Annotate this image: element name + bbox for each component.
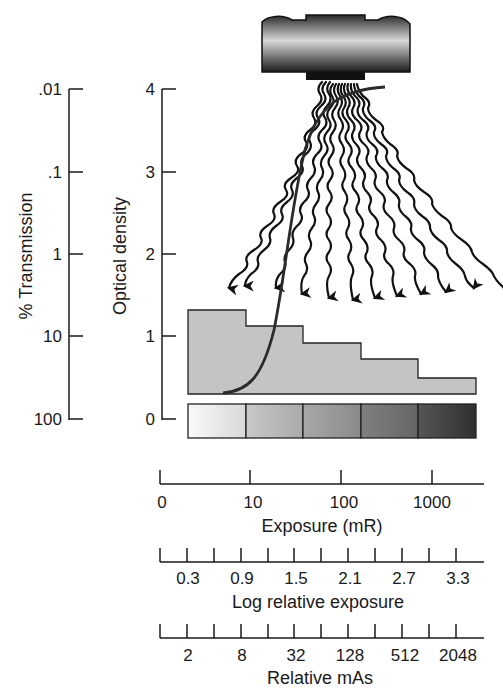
exposure-tick: 1000: [413, 493, 451, 512]
log-exposure-tick: 3.3: [446, 569, 470, 588]
relative-mas-axis: [160, 624, 484, 638]
log-exposure-axis: [160, 548, 484, 562]
density-strip: [188, 404, 476, 438]
exposure-axis: [160, 470, 484, 484]
transmission-tick: .1: [48, 163, 62, 182]
density-tick: 1: [146, 327, 155, 346]
log-exposure-tick: 0.3: [176, 569, 200, 588]
mas-tick: 2048: [439, 646, 477, 665]
density-tick: 2: [146, 245, 155, 264]
mas-tick: 8: [237, 646, 246, 665]
density-tick: 0: [146, 410, 155, 429]
xray-photon-arrows: [229, 82, 503, 300]
density-patch-3: [303, 404, 361, 438]
log-exposure-tick: 2.1: [338, 569, 362, 588]
mas-axis-label: Relative mAs: [267, 668, 373, 688]
log-exposure-tick: 0.9: [230, 569, 254, 588]
log-exposure-axis-label: Log relative exposure: [232, 592, 404, 612]
sensitometry-diagram: .01 .1 1 10 100 % Transmission 4 3 2 1 0…: [0, 0, 503, 699]
exposure-axis-label: Exposure (mR): [261, 516, 382, 536]
mas-tick: 32: [287, 646, 306, 665]
mas-tick: 2: [183, 646, 192, 665]
transmission-tick: .01: [38, 80, 62, 99]
transmission-tick: 100: [34, 410, 62, 429]
density-patch-2: [246, 404, 303, 438]
density-axis-label: Optical density: [110, 197, 130, 315]
transmission-tick: 10: [43, 327, 62, 346]
exposure-tick: 0: [157, 493, 166, 512]
density-tick: 3: [146, 163, 155, 182]
log-exposure-tick: 1.5: [284, 569, 308, 588]
optical-density-axis: [162, 89, 176, 420]
mas-tick: 512: [391, 646, 419, 665]
step-wedge: [188, 310, 476, 394]
density-patch-4: [361, 404, 418, 438]
mas-tick: 128: [336, 646, 364, 665]
transmission-axis-label: % Transmission: [16, 192, 36, 319]
log-exposure-tick: 2.7: [392, 569, 416, 588]
density-tick: 4: [146, 80, 155, 99]
density-patch-1: [188, 404, 246, 438]
density-patch-5: [418, 404, 476, 438]
exposure-tick: 100: [330, 493, 358, 512]
xray-tube-icon: [262, 15, 410, 80]
exposure-tick: 10: [244, 493, 263, 512]
transmission-tick: 1: [53, 245, 62, 264]
transmission-axis: [69, 89, 83, 420]
